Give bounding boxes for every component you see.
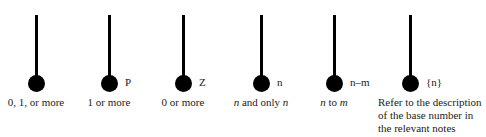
caption: 0 or more — [162, 96, 205, 108]
symbol-exactly-n: n n and only n — [261, 0, 262, 137]
filled-circle-icon — [28, 75, 45, 92]
symbol-n-to-m: n–m n to m — [334, 0, 335, 137]
caption: 0, 1, or more — [8, 96, 65, 108]
stem-line — [108, 15, 111, 81]
tag-label: Z — [199, 76, 206, 88]
caption: Refer to the description of the base num… — [378, 96, 486, 135]
tag-label: n — [277, 76, 283, 88]
filled-circle-icon — [326, 75, 343, 92]
filled-circle-icon — [101, 75, 118, 92]
stem-line — [409, 15, 412, 81]
tag-label: {n} — [426, 76, 442, 88]
symbol-one-or-more: P 1 or more — [109, 0, 110, 137]
caption: 1 or more — [88, 96, 131, 108]
caption: n to m — [320, 96, 348, 108]
caption: n and only n — [234, 96, 289, 108]
stem-line — [260, 15, 263, 81]
tag-label: n–m — [350, 76, 370, 88]
stem-line — [333, 15, 336, 81]
filled-circle-icon — [253, 75, 270, 92]
symbol-base-number: {n} Refer to the description of the base… — [410, 0, 411, 137]
stem-line — [35, 15, 38, 81]
filled-circle-icon — [402, 75, 419, 92]
stem-line — [182, 15, 185, 81]
symbol-zero-one-or-more: 0, 1, or more — [36, 0, 37, 137]
tag-label: P — [125, 76, 131, 88]
symbol-zero-or-more: Z 0 or more — [183, 0, 184, 137]
filled-circle-icon — [175, 75, 192, 92]
